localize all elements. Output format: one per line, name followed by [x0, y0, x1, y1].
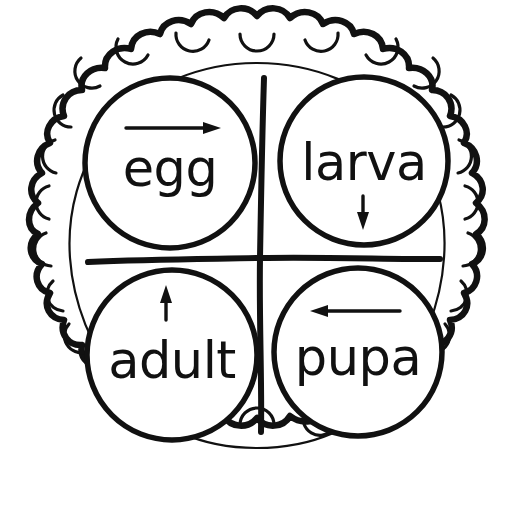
diagram-canvas: egg larva adult p [0, 0, 514, 513]
quadrant-pupa[interactable]: pupa [274, 268, 442, 436]
quadrant-larva[interactable]: larva [280, 77, 448, 245]
quadrant-egg[interactable]: egg [85, 78, 255, 248]
adult-label: adult [108, 331, 236, 390]
pupa-label: pupa [295, 328, 421, 387]
quadrant-adult[interactable]: adult [87, 270, 257, 440]
egg-label: egg [123, 139, 218, 198]
larva-label: larva [301, 133, 426, 192]
life-cycle-diagram: egg larva adult p [0, 0, 514, 513]
